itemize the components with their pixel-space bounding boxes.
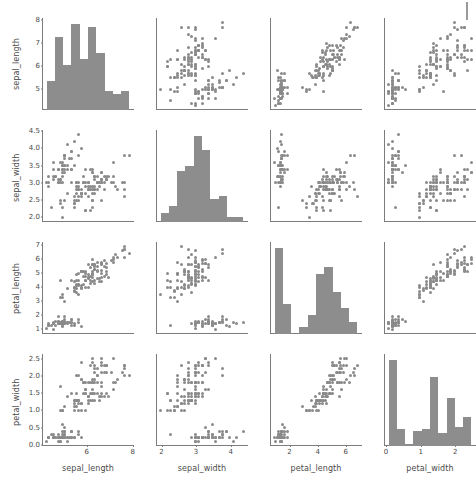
data-point xyxy=(73,409,76,412)
data-point xyxy=(446,37,449,40)
data-point xyxy=(87,286,90,289)
data-point xyxy=(187,263,190,266)
data-point xyxy=(308,88,311,91)
data-point xyxy=(59,279,62,282)
data-point xyxy=(194,102,197,105)
data-point xyxy=(123,248,126,251)
data-point xyxy=(112,175,115,178)
y-axis-title-sepal_length: sepal_length xyxy=(12,38,21,90)
data-point xyxy=(348,381,351,384)
data-point xyxy=(435,279,438,282)
plot-area xyxy=(42,130,134,222)
data-point xyxy=(91,171,94,174)
data-point xyxy=(401,171,404,174)
data-point xyxy=(418,65,421,68)
data-point xyxy=(201,374,204,377)
data-point xyxy=(187,374,190,377)
y-tick-label: 8 xyxy=(36,16,40,24)
data-point xyxy=(339,171,342,174)
data-point xyxy=(68,436,71,439)
data-point xyxy=(84,168,87,171)
histogram-bar xyxy=(341,308,349,334)
x-axis-title-sepal_length: sepal_length xyxy=(42,464,134,473)
data-point xyxy=(187,46,190,49)
data-point xyxy=(197,97,200,100)
data-point xyxy=(325,388,328,391)
data-point xyxy=(201,67,204,70)
data-point xyxy=(418,72,421,75)
data-point xyxy=(80,192,83,195)
data-point xyxy=(89,282,92,285)
data-point xyxy=(425,283,428,286)
scatter-cell-sepal_length-vs-petal_length xyxy=(270,18,362,110)
data-point xyxy=(348,35,351,38)
data-point xyxy=(322,90,325,93)
histogram-bar xyxy=(169,206,177,222)
histogram-bar xyxy=(324,267,332,334)
data-point xyxy=(397,150,400,153)
data-point xyxy=(204,49,207,52)
data-point xyxy=(446,265,449,268)
data-point xyxy=(52,161,55,164)
data-point xyxy=(166,392,169,395)
hist-cell-petal_length xyxy=(270,242,362,334)
y-tick-label: 3.0 xyxy=(29,179,40,187)
data-point xyxy=(187,361,190,364)
data-point xyxy=(283,426,286,429)
data-point xyxy=(52,175,55,178)
data-point xyxy=(345,188,348,191)
data-point xyxy=(103,364,106,367)
data-point xyxy=(460,56,463,59)
data-point xyxy=(190,263,193,266)
data-point xyxy=(345,33,348,36)
data-point xyxy=(283,72,286,75)
data-point xyxy=(190,102,193,105)
data-point xyxy=(418,290,421,293)
data-point xyxy=(63,199,66,202)
data-point xyxy=(204,258,207,261)
data-point xyxy=(190,282,193,285)
data-point xyxy=(103,275,106,278)
data-point xyxy=(187,378,190,381)
data-point xyxy=(211,320,214,323)
data-point xyxy=(96,367,99,370)
x-tick-label: 8 xyxy=(131,448,135,456)
data-point xyxy=(387,104,390,107)
data-point xyxy=(47,185,50,188)
data-point xyxy=(470,49,473,52)
data-point xyxy=(338,395,341,398)
data-point xyxy=(353,367,356,370)
data-point xyxy=(221,430,224,433)
data-point xyxy=(91,361,94,364)
data-point xyxy=(318,192,321,195)
data-point xyxy=(283,150,286,153)
data-point xyxy=(391,97,394,100)
data-point xyxy=(442,49,445,52)
data-point xyxy=(80,409,83,412)
data-point xyxy=(75,192,78,195)
data-point xyxy=(391,157,394,160)
histogram-bar xyxy=(80,59,88,110)
y-tick-label: 1 xyxy=(36,325,40,333)
data-point xyxy=(439,181,442,184)
data-point xyxy=(397,157,400,160)
x-tick-label: 0 xyxy=(384,448,388,456)
data-point xyxy=(197,266,200,269)
data-point xyxy=(331,388,334,391)
data-point xyxy=(425,72,428,75)
data-point xyxy=(190,322,193,325)
data-point xyxy=(456,49,459,52)
data-point xyxy=(84,409,87,412)
histogram-bar xyxy=(202,150,210,222)
data-point xyxy=(105,371,108,374)
data-point xyxy=(335,44,338,47)
data-point xyxy=(201,279,204,282)
scatter-cell-petal_width-vs-petal_length: 246 xyxy=(270,354,362,446)
data-point xyxy=(353,154,356,157)
data-point xyxy=(418,209,421,212)
data-point xyxy=(180,409,183,412)
data-point xyxy=(187,275,190,278)
data-point xyxy=(183,287,186,290)
data-point xyxy=(387,161,390,164)
data-point xyxy=(286,436,289,439)
